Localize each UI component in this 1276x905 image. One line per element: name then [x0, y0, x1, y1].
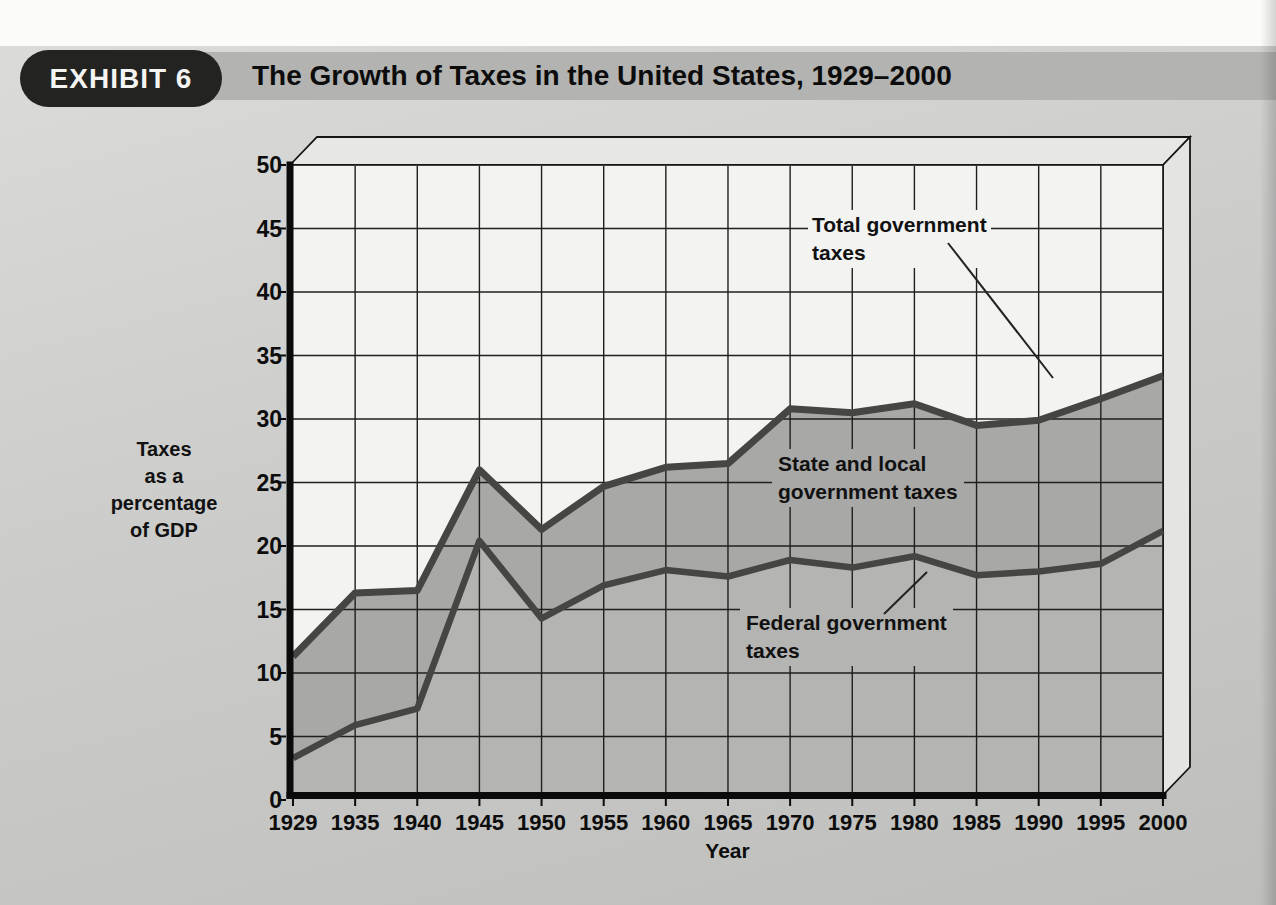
x-tick-label: 1955: [573, 810, 635, 836]
x-tick-label: 1970: [759, 810, 821, 836]
x-tick-label: 1980: [883, 810, 945, 836]
x-tick-label: 1950: [511, 810, 573, 836]
y-tick-label: 50: [238, 152, 282, 179]
x-tick-label: 1985: [946, 810, 1008, 836]
textbook-page: { "labels": { "exhibit_badge": "EXHIBIT …: [0, 0, 1276, 905]
state-local-government-taxes-label: State and local government taxes: [772, 449, 964, 507]
x-tick-label: 2000: [1132, 810, 1194, 836]
x-tick-label: 1960: [635, 810, 697, 836]
y-tick-label: 45: [238, 216, 282, 243]
y-tick-label: 20: [238, 533, 282, 560]
y-axis-title: Taxes as a percentage of GDP: [103, 436, 225, 544]
y-tick-label: 30: [238, 406, 282, 433]
y-tick-label: 15: [238, 597, 282, 624]
y-tick-label: 40: [238, 279, 282, 306]
x-tick-label: 1929: [262, 810, 324, 836]
x-tick-label: 1975: [821, 810, 883, 836]
total-government-taxes-label: Total government taxes: [808, 210, 991, 268]
x-tick-label: 1945: [448, 810, 510, 836]
x-tick-label: 1935: [324, 810, 386, 836]
x-tick-label: 1990: [1008, 810, 1070, 836]
y-tick-label: 5: [238, 724, 282, 751]
x-axis-title: Year: [670, 839, 785, 863]
federal-government-taxes-label: Federal government taxes: [740, 608, 953, 666]
x-tick-label: 1940: [386, 810, 448, 836]
y-tick-label: 25: [238, 470, 282, 497]
x-tick-label: 1965: [697, 810, 759, 836]
page-edge-shadow: [1260, 0, 1276, 905]
y-tick-label: 35: [238, 343, 282, 370]
x-tick-label: 1995: [1070, 810, 1132, 836]
y-tick-label: 10: [238, 660, 282, 687]
